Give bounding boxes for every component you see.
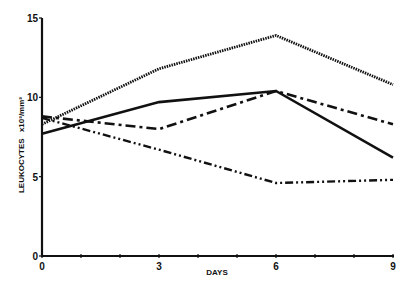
x-tick-label: 0 <box>39 261 45 272</box>
x-tick-label: 3 <box>156 261 162 272</box>
series-solid-line <box>42 91 393 158</box>
y-tick-label: 10 <box>27 92 39 103</box>
line-chart: 0369 051015 DAYS LEUKOCYTES x10³/mm³ <box>0 0 408 289</box>
series-dotted-line <box>42 35 393 124</box>
y-tick-label: 15 <box>27 13 39 24</box>
y-ticks: 051015 <box>27 13 42 262</box>
x-tick-label: 6 <box>273 261 279 272</box>
y-axis-title: LEUKOCYTES x10³/mm³ <box>17 97 26 193</box>
axes <box>41 18 394 257</box>
y-tick-label: 5 <box>32 172 38 183</box>
y-tick-label: 0 <box>32 251 38 262</box>
y-axis-title-text: LEUKOCYTES x10³/mm³ <box>17 97 26 193</box>
x-tick-label: 9 <box>390 261 396 272</box>
x-axis-title: DAYS <box>206 268 228 277</box>
series-lines <box>42 35 393 183</box>
